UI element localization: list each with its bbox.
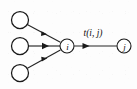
arrowhead-icon (83, 43, 90, 49)
edge-source2-to-i (29, 43, 60, 49)
node-source-2 (12, 38, 29, 55)
node-source-1 (12, 12, 29, 29)
edge-source1-to-i (27, 25, 60, 43)
arrowhead-icon (42, 43, 49, 49)
edge-source3-to-i (27, 50, 60, 68)
graph-canvas: t(i, j) i j (0, 0, 137, 89)
node-j-label: j (122, 42, 126, 52)
node-j: j (117, 39, 131, 53)
node-source-3 (12, 65, 29, 82)
edge-label-transition: t(i, j) (84, 28, 103, 39)
edge-i-to-j: t(i, j) (74, 28, 117, 50)
graph-figure: t(i, j) i j (0, 0, 137, 89)
node-i: i (60, 39, 74, 53)
